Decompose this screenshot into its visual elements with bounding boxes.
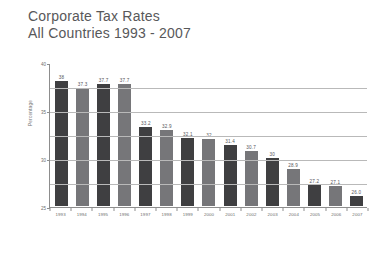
x-tick-label: 1999 — [177, 212, 198, 217]
bar-chart: Percentage 25303540 3837.337.737.733.232… — [30, 62, 370, 227]
grid-line — [50, 184, 367, 185]
y-tick-label: 25 — [41, 206, 46, 211]
x-tick-label: 1995 — [92, 212, 113, 217]
chart-title-block: Corporate Tax Rates All Countries 1993 -… — [28, 8, 191, 42]
grid-line — [50, 160, 367, 161]
x-tick-mark — [71, 208, 72, 211]
x-tick-label: 2003 — [262, 212, 283, 217]
x-tick-mark — [325, 208, 326, 211]
x-tick-mark — [283, 208, 284, 211]
axis-frame: 3837.337.737.733.232.932.13231.430.73028… — [49, 64, 367, 208]
x-tick-label: 2006 — [326, 212, 347, 217]
x-tick-mark — [92, 208, 93, 211]
bar[interactable]: 33.2 — [139, 127, 152, 206]
x-tick-mark — [240, 208, 241, 211]
x-tick-mark — [219, 208, 220, 211]
bar-value-label: 38 — [59, 75, 65, 80]
bar-value-label: 30.7 — [246, 146, 256, 151]
x-tick-label: 2001 — [220, 212, 241, 217]
x-tick-mark — [177, 208, 178, 211]
bar[interactable]: 27.2 — [308, 185, 321, 206]
x-tick-mark — [368, 208, 369, 211]
x-tick-mark — [346, 208, 347, 211]
x-tick-label: 1993 — [50, 212, 71, 217]
x-tick-mark — [113, 208, 114, 211]
x-tick-mark — [50, 208, 51, 211]
bar[interactable]: 37.7 — [118, 84, 131, 206]
y-tick-label: 30 — [41, 158, 46, 163]
bar[interactable]: 31.4 — [224, 145, 237, 206]
x-tick-mark — [156, 208, 157, 211]
bar[interactable]: 28.9 — [287, 169, 300, 206]
page-title: Corporate Tax Rates — [28, 8, 191, 25]
x-tick-label: 1997 — [135, 212, 156, 217]
x-tick-mark — [262, 208, 263, 211]
grid-line — [50, 112, 367, 113]
bar[interactable]: 26.0 — [350, 196, 363, 206]
bar-value-label: 33.2 — [141, 122, 151, 127]
bar[interactable]: 32.1 — [181, 138, 194, 206]
x-tick-label: 1996 — [114, 212, 135, 217]
bar[interactable]: 30 — [266, 158, 279, 206]
x-tick-label: 2005 — [304, 212, 325, 217]
bar[interactable]: 27.1 — [329, 186, 342, 206]
x-tick-mark — [304, 208, 305, 211]
bar-value-label: 26.0 — [352, 191, 362, 196]
x-tick-label: 2004 — [283, 212, 304, 217]
bar[interactable]: 37.7 — [97, 84, 110, 206]
x-tick-label: 1994 — [71, 212, 92, 217]
y-tick-mark — [47, 112, 50, 113]
x-tick-label: 1998 — [156, 212, 177, 217]
y-tick-label: 40 — [41, 62, 46, 67]
bar-value-label: 37.7 — [120, 78, 130, 83]
x-tick-label: 2007 — [347, 212, 368, 217]
y-tick-mark — [47, 160, 50, 161]
y-tick-label: 35 — [41, 110, 46, 115]
bar-value-label: 31.4 — [225, 139, 235, 144]
bar-value-label: 28.9 — [288, 163, 298, 168]
bar[interactable]: 32 — [202, 139, 215, 206]
bar[interactable]: 38 — [55, 81, 68, 206]
x-axis-tick-labels: 1993199419951996199719981999200020012002… — [50, 212, 368, 217]
bar[interactable]: 37.3 — [76, 88, 89, 206]
bar[interactable]: 32.9 — [160, 130, 173, 206]
x-tick-mark — [134, 208, 135, 211]
grid-line — [50, 88, 367, 89]
bar-value-label: 37.3 — [78, 82, 88, 87]
y-tick-mark — [47, 64, 50, 65]
x-tick-label: 2002 — [241, 212, 262, 217]
x-tick-label: 2000 — [198, 212, 219, 217]
bar-value-label: 37.7 — [99, 78, 109, 83]
y-axis-tick-labels: 25303540 — [30, 62, 48, 208]
page-subtitle: All Countries 1993 - 2007 — [28, 25, 191, 42]
bar-value-label: 32.9 — [162, 124, 172, 129]
plot-area: Percentage 25303540 3837.337.737.733.232… — [30, 62, 370, 227]
x-tick-mark — [198, 208, 199, 211]
bar-value-label: 30 — [269, 152, 275, 157]
grid-line — [50, 136, 367, 137]
